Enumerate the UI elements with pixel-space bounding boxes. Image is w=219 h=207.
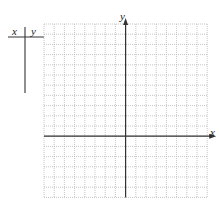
y-axis-label: y xyxy=(120,11,125,22)
coordinate-grid xyxy=(0,0,219,207)
x-axis-label: x xyxy=(210,127,215,138)
